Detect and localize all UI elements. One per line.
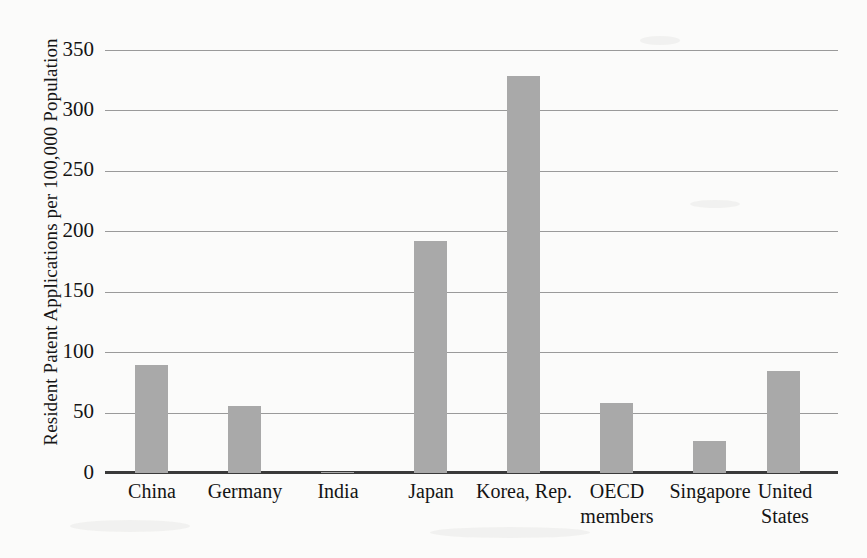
x-axis-tick-labels: China Germany India Japan Korea, Rep. OE… xyxy=(105,479,838,549)
y-tick-label: 50 xyxy=(24,401,94,422)
y-tick-label: 300 xyxy=(24,99,94,120)
bar-china[interactable] xyxy=(135,365,168,473)
x-tick-label-united-states: United States xyxy=(720,479,850,529)
bar-united-states[interactable] xyxy=(767,371,800,473)
bar-japan[interactable] xyxy=(414,241,447,473)
y-axis-tick-labels: 350 300 250 200 150 100 50 0 xyxy=(24,50,94,473)
x-tick-label-line1: Japan xyxy=(408,480,454,502)
y-tick-label: 250 xyxy=(24,159,94,180)
paper-speckle xyxy=(640,36,680,45)
bars-layer xyxy=(105,50,838,473)
bar-chart-figure: Resident Patent Applications per 100,000… xyxy=(0,0,867,558)
y-tick-label: 200 xyxy=(24,220,94,241)
bar-germany[interactable] xyxy=(228,406,261,473)
x-tick-label-line1: India xyxy=(317,480,358,502)
x-tick-label-line2: States xyxy=(720,504,850,529)
y-tick-label: 0 xyxy=(24,462,94,483)
y-tick-label: 100 xyxy=(24,341,94,362)
y-tick-label: 350 xyxy=(24,39,94,60)
bar-india[interactable] xyxy=(321,472,354,473)
x-tick-label-line2: members xyxy=(552,504,682,529)
bar-korea-rep[interactable] xyxy=(507,76,540,473)
bar-oecd-members[interactable] xyxy=(600,403,633,473)
x-tick-label-line1: United xyxy=(758,480,812,502)
bar-singapore[interactable] xyxy=(693,441,726,473)
x-tick-label-line1: OECD xyxy=(590,480,644,502)
x-tick-label-line1: China xyxy=(128,480,176,502)
x-tick-label-line1: Germany xyxy=(208,480,282,502)
y-tick-label: 150 xyxy=(24,280,94,301)
